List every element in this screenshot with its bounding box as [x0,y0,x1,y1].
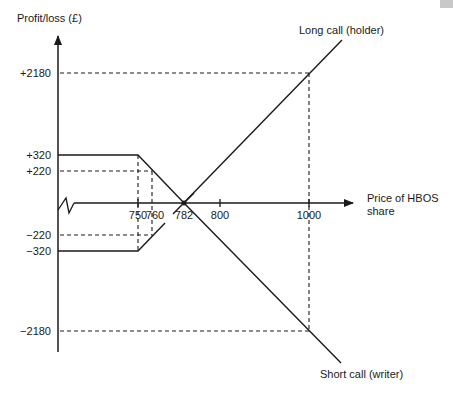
x-axis-label: Price of HBOS share [367,192,439,218]
long-call-line [58,223,165,251]
y-tick-label: +2180 [3,67,51,80]
x-tick-label: 760 [140,209,170,222]
x-axis-break-icon [58,198,74,213]
breakeven-point [182,201,187,206]
x-axis-label-line2: share [367,205,439,218]
y-tick-label: −320 [3,245,51,258]
x-tick-label: 800 [205,209,235,222]
x-tick-label: 1000 [294,209,324,222]
y-axis-label: Profit/loss (£) [17,12,82,25]
y-tick-label: +220 [3,165,51,178]
x-tick-label: 782 [169,209,199,222]
y-tick-label: −220 [3,229,51,242]
long-call-label: Long call (holder) [299,24,384,37]
long-call-line-upper [173,40,342,214]
y-tick-label: −2180 [3,325,51,338]
short-call-label: Short call (writer) [320,368,403,381]
y-tick-label: +320 [3,149,51,162]
x-axis-label-line1: Price of HBOS [367,192,439,205]
